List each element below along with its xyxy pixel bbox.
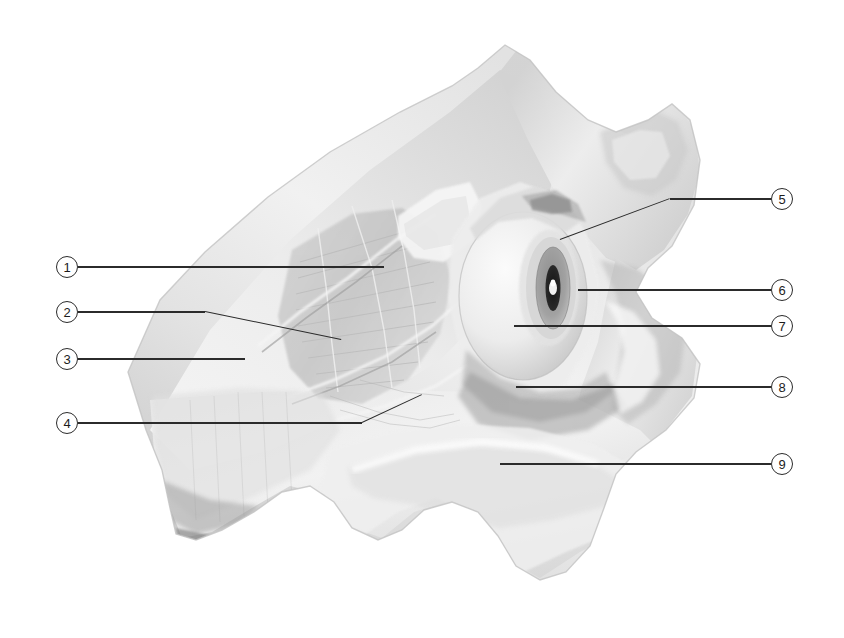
callout-label-2: 2 — [63, 305, 70, 318]
callout-marker-6[interactable]: 6 — [771, 279, 793, 301]
leader-line-8-seg-1 — [516, 386, 771, 387]
callout-marker-3[interactable]: 3 — [56, 348, 78, 370]
callout-marker-7[interactable]: 7 — [771, 315, 793, 337]
callout-label-8: 8 — [778, 380, 785, 393]
callout-label-4: 4 — [63, 416, 70, 429]
leader-line-2-seg-1 — [78, 311, 205, 312]
leader-line-5-seg-1 — [670, 198, 771, 199]
callout-marker-9[interactable]: 9 — [771, 453, 793, 475]
callout-marker-1[interactable]: 1 — [56, 256, 78, 278]
anatomical-figure: 1 2 3 4 5 6 7 8 9 — [0, 0, 844, 638]
leader-line-6-seg-1 — [578, 289, 771, 290]
leader-line-9-seg-1 — [500, 463, 771, 464]
leader-line-4-seg-1 — [78, 422, 362, 423]
callout-marker-2[interactable]: 2 — [56, 301, 78, 323]
callout-marker-4[interactable]: 4 — [56, 412, 78, 434]
callout-marker-5[interactable]: 5 — [771, 188, 793, 210]
callout-label-5: 5 — [778, 192, 785, 205]
anatomy-render — [0, 0, 844, 638]
callout-label-7: 7 — [778, 319, 785, 332]
leader-line-1-seg-1 — [78, 266, 384, 267]
leader-line-3-seg-1 — [78, 358, 245, 359]
callout-label-6: 6 — [778, 283, 785, 296]
callout-marker-8[interactable]: 8 — [771, 376, 793, 398]
leader-line-7-seg-1 — [514, 325, 771, 326]
callout-label-1: 1 — [63, 260, 70, 273]
callout-label-9: 9 — [778, 457, 785, 470]
callout-label-3: 3 — [63, 352, 70, 365]
